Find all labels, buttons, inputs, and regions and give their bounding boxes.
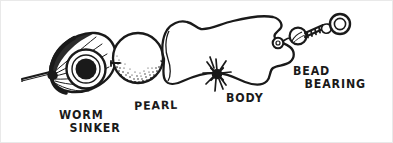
lure-body	[162, 16, 293, 84]
label-worm-sinker-line2: SINKER	[70, 122, 121, 135]
pearl-bead	[111, 33, 163, 83]
label-bead-bearing: BEADBEARING	[293, 65, 366, 90]
fishing-line	[22, 72, 50, 82]
label-body-line1: BODY	[226, 91, 264, 105]
label-worm-sinker: WORMSINKER	[59, 109, 121, 134]
figure-canvas: WORMSINKER PEARL BODY BEADBEARING	[0, 0, 393, 143]
worm-sinker	[47, 33, 116, 93]
label-pearl: PEARL	[134, 99, 178, 113]
label-pearl-line1: PEARL	[134, 98, 178, 113]
label-worm-sinker-line1: WORM	[59, 108, 104, 122]
label-body: BODY	[226, 92, 264, 105]
label-bead-bearing-line2: BEARING	[305, 78, 366, 91]
bead-bearing-swivel	[273, 14, 350, 48]
label-bead-bearing-line1: BEAD	[293, 64, 330, 78]
